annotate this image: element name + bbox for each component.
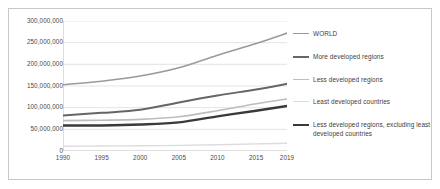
x-tick-label: 1990 xyxy=(56,155,70,161)
legend-item[interactable]: Less developed regions, excluding least … xyxy=(293,120,433,139)
y-tick-label: 100,000,000 xyxy=(7,104,63,110)
legend-item-label: WORLD xyxy=(313,29,337,38)
series-line xyxy=(63,106,287,126)
x-axis: 1990199520002005201020152019 xyxy=(63,155,287,169)
legend-item-label: Less developed regions xyxy=(313,75,383,84)
legend-item-label: More developed regions xyxy=(313,52,384,61)
chart-frame: 050,000,000100,000,000150,000,000200,000… xyxy=(8,8,432,180)
legend-item[interactable]: Least developed countries xyxy=(293,97,433,106)
legend-swatch-line-icon xyxy=(293,79,309,80)
x-tick-label: 2010 xyxy=(210,155,224,161)
y-tick-label: 0 xyxy=(7,148,63,154)
y-tick-label: 250,000,000 xyxy=(7,39,63,45)
legend-swatch-line-icon xyxy=(293,33,309,34)
plot-svg xyxy=(63,21,287,151)
chart-legend: WORLDMore developed regionsLess develope… xyxy=(293,29,433,152)
y-axis: 050,000,000100,000,000150,000,000200,000… xyxy=(5,21,63,151)
legend-item-label: Less developed regions, excluding least … xyxy=(313,120,433,139)
chart-figure: 050,000,000100,000,000150,000,000200,000… xyxy=(0,0,440,189)
legend-item[interactable]: WORLD xyxy=(293,29,433,38)
legend-swatch-line-icon xyxy=(293,124,309,126)
plot-area xyxy=(63,21,287,151)
x-tick-label: 2019 xyxy=(280,155,294,161)
y-tick-label: 150,000,000 xyxy=(7,83,63,89)
series-line xyxy=(63,33,287,85)
y-tick-label: 50,000,000 xyxy=(7,126,63,132)
x-tick-label: 2005 xyxy=(172,155,186,161)
x-tick-label: 1995 xyxy=(94,155,108,161)
y-tick-label: 300,000,000 xyxy=(7,18,63,24)
series-line xyxy=(63,143,287,146)
legend-swatch-line-icon xyxy=(293,101,309,102)
legend-swatch-line-icon xyxy=(293,56,309,58)
x-tick-label: 2000 xyxy=(133,155,147,161)
legend-item-label: Least developed countries xyxy=(313,97,390,106)
x-tick-label: 2015 xyxy=(249,155,263,161)
legend-item[interactable]: More developed regions xyxy=(293,52,433,61)
y-tick-label: 200,000,000 xyxy=(7,61,63,67)
legend-item[interactable]: Less developed regions xyxy=(293,75,433,84)
